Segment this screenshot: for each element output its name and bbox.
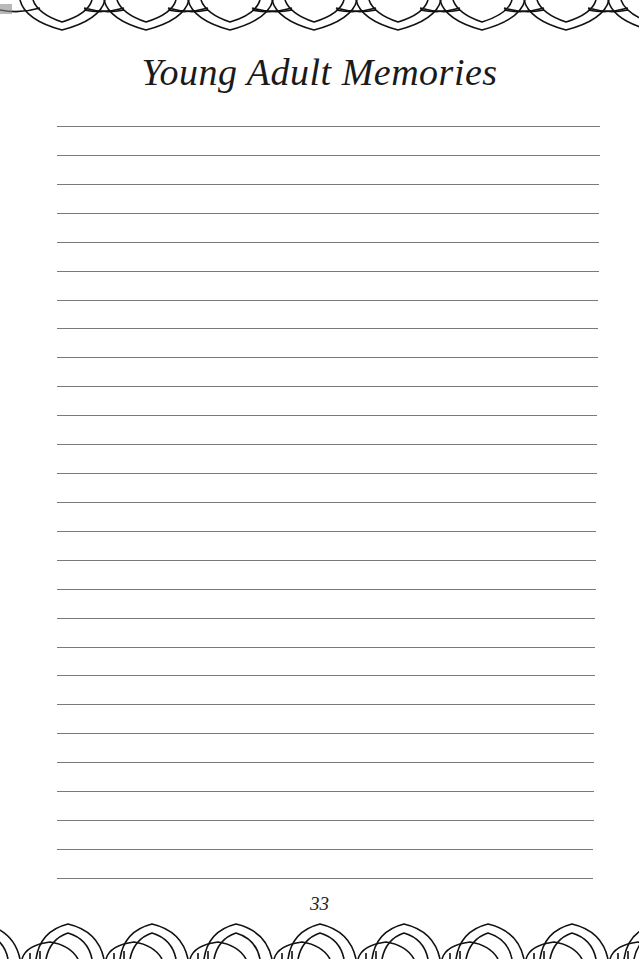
writing-line bbox=[57, 242, 599, 243]
writing-line bbox=[57, 791, 594, 792]
writing-line bbox=[57, 878, 593, 879]
writing-line bbox=[57, 589, 596, 590]
writing-line bbox=[57, 357, 598, 358]
page-title: Young Adult Memories bbox=[0, 50, 639, 94]
writing-line bbox=[57, 126, 600, 127]
writing-line bbox=[57, 473, 597, 474]
writing-line bbox=[57, 386, 598, 387]
writing-line bbox=[57, 820, 594, 821]
writing-line bbox=[57, 560, 596, 561]
celtic-knot-border-bottom-icon bbox=[0, 917, 639, 959]
writing-line bbox=[57, 415, 597, 416]
writing-line bbox=[57, 733, 594, 734]
writing-line bbox=[57, 271, 599, 272]
page-number: 33 bbox=[0, 893, 639, 915]
celtic-knot-border-top-icon bbox=[0, 0, 639, 34]
writing-line bbox=[57, 213, 599, 214]
writing-line bbox=[57, 704, 595, 705]
writing-line bbox=[57, 675, 595, 676]
writing-line bbox=[57, 647, 595, 648]
writing-line bbox=[57, 531, 596, 532]
writing-line bbox=[57, 849, 593, 850]
writing-line bbox=[57, 300, 598, 301]
writing-line bbox=[57, 618, 595, 619]
writing-line bbox=[57, 762, 594, 763]
writing-line bbox=[57, 328, 598, 329]
writing-line bbox=[57, 444, 597, 445]
writing-line bbox=[57, 184, 599, 185]
writing-line bbox=[57, 502, 596, 503]
writing-line bbox=[57, 155, 600, 156]
